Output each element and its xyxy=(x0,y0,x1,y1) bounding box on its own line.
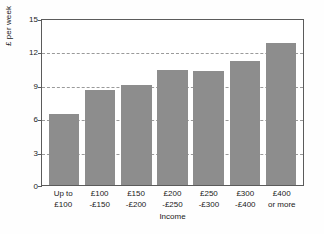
y-tick-label: 6 xyxy=(16,115,38,124)
bar[interactable] xyxy=(49,114,79,185)
bar-slot xyxy=(263,20,299,185)
y-tick-mark xyxy=(38,154,42,155)
x-tick-label-line: £100 xyxy=(91,189,109,198)
x-axis-tick-labels: Up to£100£100-£150£150-£200£200-£250£250… xyxy=(41,189,304,213)
bar-chart: £ per week 03691215 Up to£100£100-£150£1… xyxy=(0,0,324,234)
x-tick-label: £150-£200 xyxy=(118,189,154,213)
bar-slot xyxy=(154,20,190,185)
bar-slot xyxy=(118,20,154,185)
x-tick-label-line: -£250 xyxy=(154,200,190,211)
plot-area xyxy=(41,19,304,186)
y-tick-mark xyxy=(38,120,42,121)
y-tick-label: 3 xyxy=(16,149,38,158)
y-axis-tick-labels: 03691215 xyxy=(16,12,38,194)
bar[interactable] xyxy=(157,70,187,185)
bar[interactable] xyxy=(266,43,296,186)
x-tick-label-line: Up to xyxy=(54,189,73,198)
x-tick-label-line: -£200 xyxy=(118,200,154,211)
x-tick-label-line: £300 xyxy=(236,189,254,198)
y-tick-mark xyxy=(38,87,42,88)
x-axis-title: Income xyxy=(41,212,304,221)
x-tick-label-line: £400 xyxy=(273,189,291,198)
x-tick-label-line: £250 xyxy=(200,189,218,198)
y-tick-label: 15 xyxy=(16,15,38,24)
x-tick-label: £250-£300 xyxy=(191,189,227,213)
x-tick-label-line: or more xyxy=(264,200,300,211)
x-tick-label-line: £200 xyxy=(164,189,182,198)
x-tick-label: Up to£100 xyxy=(45,189,81,213)
x-tick-label-line: -£150 xyxy=(81,200,117,211)
bar[interactable] xyxy=(121,85,151,185)
bar-slot xyxy=(227,20,263,185)
x-tick-label-line: £150 xyxy=(127,189,145,198)
x-tick-label: £300-£400 xyxy=(227,189,263,213)
y-tick-label: 9 xyxy=(16,82,38,91)
y-tick-mark xyxy=(38,20,42,21)
bar-slot xyxy=(82,20,118,185)
y-tick-label: 0 xyxy=(16,182,38,191)
y-axis-title: £ per week xyxy=(2,0,16,71)
bar[interactable] xyxy=(193,71,223,185)
x-tick-label: £400or more xyxy=(264,189,300,213)
x-tick-label: £100-£150 xyxy=(81,189,117,213)
bar-slot xyxy=(191,20,227,185)
y-tick-label: 12 xyxy=(16,48,38,57)
x-tick-label-line: -£300 xyxy=(191,200,227,211)
y-tick-mark xyxy=(38,53,42,54)
bar-slot xyxy=(46,20,82,185)
bar-series xyxy=(42,20,303,185)
x-tick-label-line: -£400 xyxy=(227,200,263,211)
bar[interactable] xyxy=(230,61,260,185)
x-tick-label-line: £100 xyxy=(45,200,81,211)
bar[interactable] xyxy=(85,90,115,185)
y-tick-mark xyxy=(38,186,42,187)
x-tick-label: £200-£250 xyxy=(154,189,190,213)
